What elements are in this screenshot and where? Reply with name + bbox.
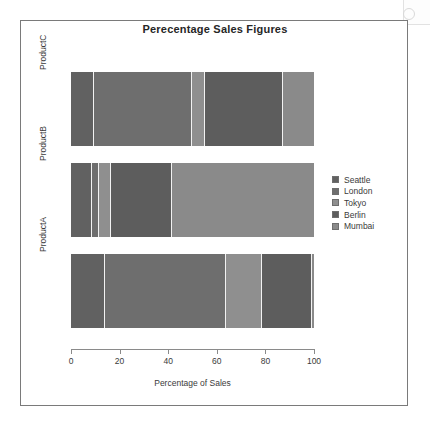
x-tick-100 (314, 349, 315, 354)
bar-segment-seattle[interactable] (71, 254, 105, 328)
y-axis-label-productb: ProductB (38, 126, 48, 161)
y-axis-label-productc: ProductC (38, 35, 48, 70)
chart-page: Perecentage Sales Figures ProductC Produ… (0, 0, 430, 427)
bar-segments (71, 72, 314, 146)
bar-segment-berlin[interactable] (111, 163, 172, 237)
x-tick-label-100: 100 (307, 356, 321, 366)
x-tick-label-80: 80 (261, 356, 270, 366)
plot-area: ProductC ProductB ProductA 020406080100 … (0, 0, 430, 427)
stacked-bar-productc[interactable] (71, 72, 314, 146)
bar-segment-mumbai[interactable] (172, 163, 314, 237)
y-axis-label-producta: ProductA (38, 217, 48, 252)
x-tick-60 (217, 349, 218, 354)
legend-label: Mumbai (344, 221, 374, 231)
bar-segment-berlin[interactable] (205, 72, 283, 146)
x-tick-80 (265, 349, 266, 354)
legend-swatch-icon (332, 223, 339, 230)
x-axis-line (71, 349, 314, 350)
x-tick-label-0: 0 (69, 356, 74, 366)
stacked-bar-productb[interactable] (71, 163, 314, 237)
legend-swatch-icon (332, 188, 339, 195)
bar-segment-mumbai[interactable] (312, 254, 314, 328)
stacked-bar-producta[interactable] (71, 254, 314, 328)
legend-item-london[interactable]: London (332, 186, 374, 198)
legend-item-mumbai[interactable]: Mumbai (332, 220, 374, 232)
legend-swatch-icon (332, 176, 339, 183)
legend-item-berlin[interactable]: Berlin (332, 209, 374, 221)
bar-segment-london[interactable] (92, 163, 99, 237)
x-tick-40 (168, 349, 169, 354)
legend-label: London (344, 186, 372, 196)
legend-label: Tokyo (344, 198, 366, 208)
x-tick-20 (120, 349, 121, 354)
bar-segments (71, 163, 314, 237)
bar-segment-berlin[interactable] (262, 254, 312, 328)
legend-swatch-icon (332, 199, 339, 206)
legend-label: Seattle (344, 175, 370, 185)
x-tick-label-40: 40 (163, 356, 172, 366)
bar-segment-seattle[interactable] (71, 72, 94, 146)
x-axis-title: Percentage of Sales (71, 378, 314, 388)
legend-swatch-icon (332, 211, 339, 218)
legend-item-seattle[interactable]: Seattle (332, 174, 374, 186)
bar-segment-seattle[interactable] (71, 163, 92, 237)
legend: SeattleLondonTokyoBerlinMumbai (332, 174, 374, 232)
bar-segment-london[interactable] (105, 254, 226, 328)
bar-segments (71, 254, 314, 328)
x-tick-0 (71, 349, 72, 354)
bar-segment-mumbai[interactable] (283, 72, 314, 146)
legend-label: Berlin (344, 210, 366, 220)
x-tick-label-20: 20 (115, 356, 124, 366)
x-tick-label-60: 60 (212, 356, 221, 366)
legend-item-tokyo[interactable]: Tokyo (332, 197, 374, 209)
bar-segment-tokyo[interactable] (192, 72, 205, 146)
bar-segment-tokyo[interactable] (226, 254, 262, 328)
bar-segment-tokyo[interactable] (99, 163, 111, 237)
bar-segment-london[interactable] (94, 72, 192, 146)
